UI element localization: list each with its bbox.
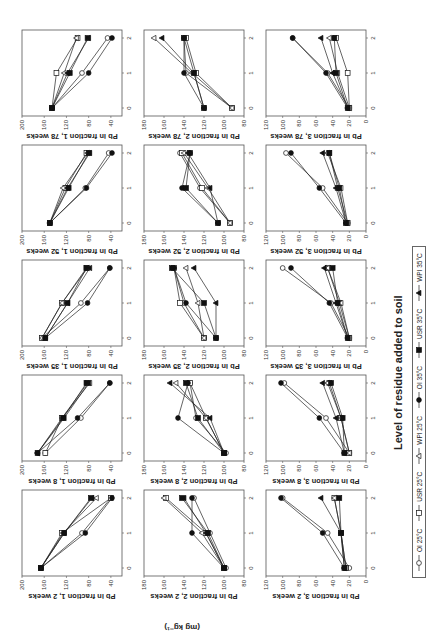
svg-text:160: 160 xyxy=(41,349,47,360)
svg-text:Pb in fraction 3, 78 weeks: Pb in fraction 3, 78 weeks xyxy=(270,132,361,141)
svg-text:40: 40 xyxy=(330,464,336,471)
svg-text:200: 200 xyxy=(19,119,25,130)
svg-text:2: 2 xyxy=(248,266,254,270)
svg-text:2: 2 xyxy=(370,496,376,500)
svg-text:100: 100 xyxy=(280,234,286,245)
figure-grid: 4080120160200012Pb in fraction 1, 2 week… xyxy=(0,0,437,640)
circle-marker-icon xyxy=(415,555,423,571)
svg-text:1: 1 xyxy=(370,71,376,75)
svg-text:1: 1 xyxy=(126,71,132,75)
svg-text:180: 180 xyxy=(141,579,147,590)
svg-text:100: 100 xyxy=(280,349,286,360)
svg-text:180: 180 xyxy=(141,234,147,245)
chart-panel: 020406080100120012Pb in fraction 3, 2 we… xyxy=(264,484,388,600)
legend-item: USR 25°C xyxy=(415,472,423,521)
svg-text:200: 200 xyxy=(19,349,25,360)
triangle-marker-icon xyxy=(415,285,423,301)
svg-text:1: 1 xyxy=(370,186,376,190)
svg-text:2: 2 xyxy=(126,151,132,155)
svg-text:140: 140 xyxy=(181,464,187,475)
svg-text:120: 120 xyxy=(263,119,269,130)
svg-text:120: 120 xyxy=(201,579,207,590)
svg-text:160: 160 xyxy=(41,234,47,245)
chart-panel: 020406080100120012Pb in fraction 3, 78 w… xyxy=(264,24,388,140)
chart-panel: 80100120140160180012Pb in fraction 2, 35… xyxy=(142,254,266,370)
svg-text:40: 40 xyxy=(108,349,114,356)
svg-text:0: 0 xyxy=(248,221,254,225)
svg-text:100: 100 xyxy=(280,119,286,130)
svg-text:80: 80 xyxy=(296,234,302,241)
chart-panel: 4080120160200012Pb in fraction 1, 35 wee… xyxy=(20,254,144,370)
svg-text:160: 160 xyxy=(41,119,47,130)
chart-panel: 80100120140160180012Pb in fraction 2, 52… xyxy=(142,139,266,255)
svg-text:0: 0 xyxy=(126,221,132,225)
svg-text:2: 2 xyxy=(126,381,132,385)
svg-text:80: 80 xyxy=(86,234,92,241)
svg-text:1: 1 xyxy=(126,531,132,535)
svg-text:80: 80 xyxy=(241,579,247,586)
svg-text:100: 100 xyxy=(221,579,227,590)
legend-label: USR 35°C xyxy=(416,309,423,339)
svg-text:2: 2 xyxy=(248,381,254,385)
chart-panel: 4080120160200012Pb in fraction 1, 8 week… xyxy=(20,369,144,485)
svg-text:20: 20 xyxy=(346,119,352,126)
svg-text:60: 60 xyxy=(313,234,319,241)
svg-text:40: 40 xyxy=(108,464,114,471)
svg-text:0: 0 xyxy=(126,106,132,110)
svg-text:1: 1 xyxy=(370,301,376,305)
svg-text:2: 2 xyxy=(126,266,132,270)
legend-label: WPI 35°C xyxy=(416,253,423,282)
svg-text:Pb in fraction 2, 2 weeks: Pb in fraction 2, 2 weeks xyxy=(150,592,237,601)
svg-text:80: 80 xyxy=(296,119,302,126)
svg-text:Pb in fraction 2, 8 weeks: Pb in fraction 2, 8 weeks xyxy=(150,477,237,486)
svg-text:0: 0 xyxy=(363,349,369,353)
svg-text:0: 0 xyxy=(126,566,132,570)
svg-text:40: 40 xyxy=(330,349,336,356)
svg-text:0: 0 xyxy=(248,336,254,340)
svg-text:140: 140 xyxy=(181,234,187,245)
svg-text:100: 100 xyxy=(221,234,227,245)
svg-text:0: 0 xyxy=(248,106,254,110)
svg-text:180: 180 xyxy=(141,349,147,360)
svg-text:160: 160 xyxy=(161,119,167,130)
circle-marker-icon xyxy=(415,392,423,408)
svg-text:60: 60 xyxy=(313,349,319,356)
units-label: (mg kg⁻¹) xyxy=(164,623,200,632)
svg-text:20: 20 xyxy=(346,234,352,241)
svg-text:40: 40 xyxy=(108,234,114,241)
svg-text:120: 120 xyxy=(263,464,269,475)
svg-text:140: 140 xyxy=(181,579,187,590)
svg-text:200: 200 xyxy=(19,234,25,245)
svg-text:1: 1 xyxy=(126,416,132,420)
svg-text:0: 0 xyxy=(248,566,254,570)
svg-text:Pb in fraction 1, 78 weeks: Pb in fraction 1, 78 weeks xyxy=(26,132,117,141)
svg-text:120: 120 xyxy=(63,119,69,130)
svg-text:0: 0 xyxy=(363,119,369,123)
svg-text:0: 0 xyxy=(370,451,376,455)
chart-panel: 020406080100120012Pb in fraction 3, 8 we… xyxy=(264,369,388,485)
svg-text:1: 1 xyxy=(248,531,254,535)
svg-text:Pb in fraction 1, 2 weeks: Pb in fraction 1, 2 weeks xyxy=(28,592,115,601)
svg-text:0: 0 xyxy=(126,336,132,340)
svg-text:80: 80 xyxy=(296,349,302,356)
svg-text:60: 60 xyxy=(313,464,319,471)
svg-text:80: 80 xyxy=(241,464,247,471)
svg-text:160: 160 xyxy=(161,349,167,360)
svg-text:120: 120 xyxy=(263,349,269,360)
svg-text:Pb in fraction 2, 52 weeks: Pb in fraction 2, 52 weeks xyxy=(148,247,239,256)
svg-text:0: 0 xyxy=(363,579,369,583)
svg-text:120: 120 xyxy=(263,579,269,590)
svg-text:40: 40 xyxy=(330,579,336,586)
svg-text:100: 100 xyxy=(221,349,227,360)
svg-text:Pb in fraction 3, 35 weeks: Pb in fraction 3, 35 weeks xyxy=(270,362,361,371)
svg-text:120: 120 xyxy=(63,579,69,590)
svg-text:1: 1 xyxy=(248,186,254,190)
svg-text:180: 180 xyxy=(141,464,147,475)
svg-text:120: 120 xyxy=(63,234,69,245)
svg-text:200: 200 xyxy=(19,579,25,590)
svg-text:140: 140 xyxy=(181,349,187,360)
svg-text:80: 80 xyxy=(241,234,247,241)
legend-label: OI 35°C xyxy=(416,366,423,389)
svg-text:2: 2 xyxy=(126,496,132,500)
triangle-marker-icon xyxy=(415,448,423,464)
